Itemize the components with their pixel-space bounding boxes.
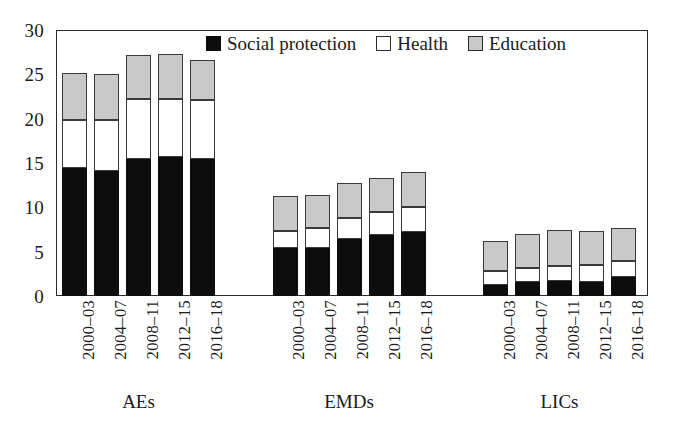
stacked-bar-chart-figure: 051015202530 2000–032004–072008–112012–1… xyxy=(0,0,685,431)
x-axis-tick-label: 2004–07 xyxy=(323,300,340,360)
stacked-bar xyxy=(337,183,362,296)
bar-segment-health xyxy=(62,120,87,168)
x-axis-tick-label: 2000–03 xyxy=(81,300,98,360)
stacked-bar xyxy=(126,55,151,296)
bar-segment-social xyxy=(62,168,87,296)
group-label-lics: LICs xyxy=(541,392,579,411)
stacked-bar xyxy=(579,231,604,296)
stacked-bar xyxy=(190,60,215,296)
bar-segment-health xyxy=(158,99,183,157)
x-axis-tick-label: 2016–18 xyxy=(419,300,436,360)
bar-segment-social xyxy=(369,235,394,296)
x-axis-tick-label: 2012–15 xyxy=(387,300,404,360)
x-axis-group-labels: AEsEMDsLICs xyxy=(56,392,648,424)
legend-entry: Education xyxy=(468,34,566,53)
stacked-bar xyxy=(547,230,572,296)
bar-segment-educ xyxy=(401,172,426,207)
stacked-bar xyxy=(515,234,540,296)
x-axis-tick-label: 2004–07 xyxy=(113,300,130,360)
x-axis-tick-label: 2016–18 xyxy=(630,300,647,360)
bar-segment-educ xyxy=(94,74,119,120)
bar-segment-educ xyxy=(337,183,362,218)
bar-segment-health xyxy=(579,265,604,282)
bar-segment-social xyxy=(158,157,183,296)
stacked-bar xyxy=(158,54,183,296)
bar-segment-health xyxy=(547,266,572,281)
legend-entry: Social protection xyxy=(206,34,356,53)
stacked-bar xyxy=(94,74,119,296)
bars-layer xyxy=(56,30,648,296)
bar-segment-social xyxy=(94,171,119,296)
legend-entry: Health xyxy=(376,34,448,53)
x-axis-tick-label: 2008–11 xyxy=(355,300,372,359)
bar-segment-health xyxy=(126,99,151,158)
stacked-bar xyxy=(305,195,330,296)
bar-segment-health xyxy=(401,207,426,232)
x-axis-tick-label: 2000–03 xyxy=(291,300,308,360)
x-axis-tick-label: 2012–15 xyxy=(177,300,194,360)
y-axis-tick-label: 25 xyxy=(25,65,44,84)
bar-segment-educ xyxy=(158,54,183,99)
x-axis-tick-labels: 2000–032004–072008–112012–152016–182000–… xyxy=(56,296,648,388)
bar-segment-educ xyxy=(273,196,298,231)
bar-segment-social xyxy=(337,239,362,296)
y-axis-tick-label: 15 xyxy=(25,154,44,173)
group-label-aes: AEs xyxy=(122,392,155,411)
bar-segment-health xyxy=(94,120,119,171)
bar-segment-health xyxy=(337,218,362,239)
legend-swatch-social-icon xyxy=(206,36,221,51)
bar-segment-social xyxy=(273,248,298,296)
x-axis-tick-label: 2016–18 xyxy=(209,300,226,360)
stacked-bar xyxy=(401,172,426,296)
bar-segment-social xyxy=(515,282,540,296)
bar-segment-educ xyxy=(369,178,394,212)
bar-segment-health xyxy=(273,231,298,248)
bar-segment-health xyxy=(369,212,394,235)
group-label-emds: EMDs xyxy=(324,392,374,411)
bar-segment-educ xyxy=(483,241,508,271)
stacked-bar xyxy=(273,196,298,296)
bar-segment-health xyxy=(483,271,508,285)
y-axis-tick-label: 30 xyxy=(25,21,44,40)
legend-label: Social protection xyxy=(227,34,356,53)
y-axis-tick-label: 0 xyxy=(34,287,44,306)
bar-segment-social xyxy=(126,159,151,296)
bar-segment-educ xyxy=(62,73,87,120)
bar-segment-social xyxy=(305,248,330,296)
x-axis-tick-label: 2008–11 xyxy=(145,300,162,359)
legend-swatch-health-icon xyxy=(376,36,391,51)
y-axis-tick-label: 10 xyxy=(25,198,44,217)
y-axis-tick-label: 20 xyxy=(25,109,44,128)
x-axis-tick-label: 2012–15 xyxy=(598,300,615,360)
bar-segment-health xyxy=(190,100,215,159)
chart-legend: Social protectionHealthEducation xyxy=(206,34,566,53)
stacked-bar xyxy=(611,228,636,296)
bar-segment-social xyxy=(483,285,508,296)
bar-segment-social xyxy=(579,282,604,296)
legend-swatch-educ-icon xyxy=(468,36,483,51)
y-axis-tick-label: 5 xyxy=(34,242,44,261)
x-axis-tick-label: 2008–11 xyxy=(566,300,583,359)
bar-segment-health xyxy=(305,228,330,248)
bar-segment-educ xyxy=(305,195,330,228)
bar-segment-health xyxy=(515,268,540,282)
bar-segment-educ xyxy=(190,60,215,100)
x-axis-tick-label: 2004–07 xyxy=(534,300,551,360)
legend-label: Education xyxy=(489,34,566,53)
bar-segment-educ xyxy=(547,230,572,265)
bar-segment-social xyxy=(401,232,426,296)
y-axis: 051015202530 xyxy=(0,30,50,296)
x-axis-tick-label: 2000–03 xyxy=(502,300,519,360)
bar-segment-social xyxy=(547,281,572,296)
bar-segment-educ xyxy=(611,228,636,261)
bar-segment-educ xyxy=(579,231,604,265)
bar-segment-social xyxy=(190,159,215,296)
stacked-bar xyxy=(483,241,508,296)
bar-segment-educ xyxy=(515,234,540,268)
stacked-bar xyxy=(62,73,87,296)
bar-segment-health xyxy=(611,261,636,277)
stacked-bar xyxy=(369,178,394,296)
bar-segment-social xyxy=(611,277,636,297)
bar-segment-educ xyxy=(126,55,151,99)
legend-label: Health xyxy=(397,34,448,53)
